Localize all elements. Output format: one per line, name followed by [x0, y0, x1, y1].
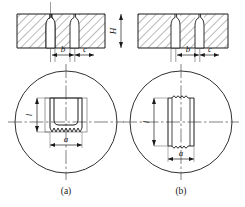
dimension-label-b-left: b: [61, 44, 66, 54]
technical-drawing-figure: b c H b: [0, 0, 245, 207]
dimension-label-l-b: l: [141, 120, 151, 123]
detail-view-a: l a (a): [8, 64, 124, 197]
slot-1: [46, 14, 55, 48]
plate-section-view: b c H b: [17, 2, 228, 62]
detail-view-b: l a (b): [123, 64, 239, 197]
dimension-label-b-right: b: [186, 44, 191, 54]
dimension-label-c-right: c: [208, 44, 212, 54]
dimension-label-H: H: [108, 27, 118, 35]
slot-2: [70, 14, 79, 48]
caption-b: (b): [175, 186, 186, 197]
dimension-l-a: l: [24, 98, 50, 132]
dimension-label-c-left: c: [83, 44, 87, 54]
dimension-label-l-a: l: [24, 113, 34, 116]
slot-3: [171, 14, 180, 48]
drawing-canvas: b c H b: [0, 0, 245, 207]
caption-a: (a): [61, 186, 72, 197]
dimension-label-a-a: a: [64, 134, 69, 144]
dimension-label-a-b: a: [179, 148, 184, 158]
slot-4: [195, 14, 204, 48]
dimension-H: H: [108, 14, 123, 48]
